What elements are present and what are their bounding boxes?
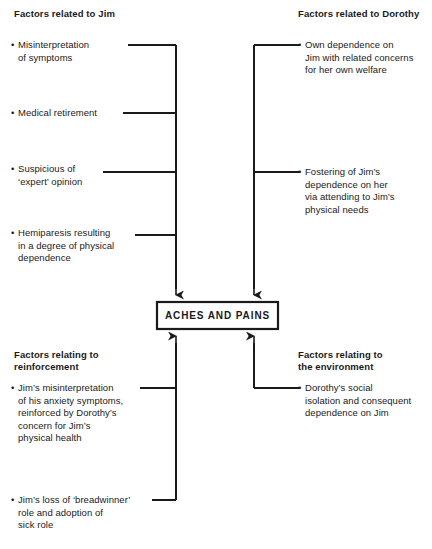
heading-factors-related-to-jim: Factors related to Jim (14, 8, 194, 20)
bullet-dot-icon: • (298, 39, 305, 52)
list-item: • Jim’s loss of ‘breadwinner’ role and a… (11, 494, 171, 532)
list-item-label: Dorothy’s social isolation and consequen… (305, 382, 432, 420)
center-node-label: ACHES AND PAINS (157, 302, 278, 329)
list-item: • Misinterpretation of symptoms (11, 39, 151, 64)
bullet-dot-icon: • (298, 382, 305, 395)
list-item: • Fostering of Jim’s dependence on her v… (298, 166, 428, 216)
bullet-dot-icon: • (11, 107, 18, 120)
list-item: • Jim’s misinterpretation of his anxiety… (11, 382, 173, 445)
list-item-label: Jim’s misinterpretation of his anxiety s… (18, 382, 173, 445)
heading-factors-relating-to-the-environment: Factors relating to the environment (298, 349, 432, 373)
list-item: • Suspicious of ‘expert’ opinion (11, 163, 151, 188)
list-item-label: Hemiparesis resulting in a degree of phy… (18, 227, 166, 265)
list-item-label: Medical retirement (18, 107, 151, 120)
bullet-dot-icon: • (11, 39, 18, 52)
list-item-label: Own dependence on Jim with related conce… (305, 39, 430, 77)
bullet-dot-icon: • (11, 382, 18, 395)
list-item: • Hemiparesis resulting in a degree of p… (11, 227, 166, 265)
flow-diagram: ACHES AND PAINS Factors related to Jim F… (0, 0, 432, 549)
list-item-label: Jim’s loss of ‘breadwinner’ role and ado… (18, 494, 171, 532)
heading-factors-relating-to-reinforcement: Factors relating to reinforcement (14, 349, 164, 373)
list-item: • Own dependence on Jim with related con… (298, 39, 430, 77)
list-item: • Dorothy’s social isolation and consequ… (298, 382, 432, 420)
bullet-dot-icon: • (298, 166, 305, 179)
list-item-label: Misinterpretation of symptoms (18, 39, 151, 64)
bullet-dot-icon: • (11, 494, 18, 507)
list-item-label: Suspicious of ‘expert’ opinion (18, 163, 151, 188)
connector-lines (0, 0, 432, 549)
bullet-dot-icon: • (11, 227, 18, 240)
heading-factors-related-to-dorothy: Factors related to Dorothy (298, 8, 432, 20)
bullet-dot-icon: • (11, 163, 18, 176)
list-item: • Medical retirement (11, 107, 151, 120)
list-item-label: Fostering of Jim’s dependence on her via… (305, 166, 428, 216)
